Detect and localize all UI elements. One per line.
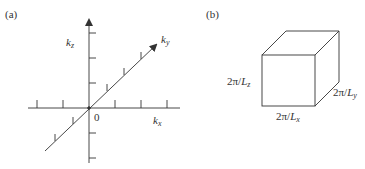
kx-label: kx [153,114,161,128]
reciprocal-lattice-axes [28,20,180,163]
edge-y-label: 2π/Ly [333,86,357,100]
panel-a-label: (a) [5,8,17,20]
edge-x-label: 2π/Lx [276,110,300,124]
ky-axis [45,45,156,151]
panel-b-label: (b) [206,8,219,20]
cube-top-face [262,31,339,55]
ky-ticks [55,52,141,141]
origin-label: 0 [94,111,100,123]
k-space-cell-cube [262,31,339,106]
cube-front-face [262,55,315,106]
edge-z-label: 2π/Lz [227,75,250,89]
diagram-canvas [0,0,365,169]
kz-label: kz [66,36,74,50]
kz-ticks [89,33,96,158]
origin-dot [88,107,91,110]
ky-label: ky [161,33,169,47]
kx-ticks [37,100,167,108]
